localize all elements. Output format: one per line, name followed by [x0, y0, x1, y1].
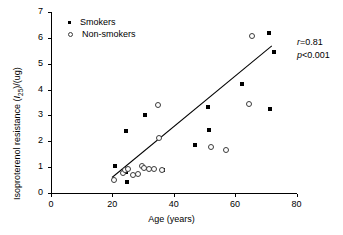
marker-non-smoker	[135, 171, 141, 177]
y-tick-label: 7	[29, 7, 43, 16]
y-axis-title-symbol: I	[12, 96, 22, 99]
marker-smoker	[267, 31, 271, 35]
legend: Smokers Non-smokers	[68, 16, 136, 40]
y-axis-title-suffix: )/(ug)	[12, 67, 22, 89]
x-tick-label: 40	[164, 200, 184, 209]
y-tick-label: 5	[29, 59, 43, 68]
legend-item-smokers: Smokers	[68, 16, 136, 28]
x-tick-label: 0	[41, 200, 61, 209]
annotation-correlation: r=0.81	[297, 37, 323, 47]
marker-non-smoker	[156, 135, 162, 141]
annotation-pvalue: p<0.001	[297, 50, 330, 60]
filled-square-icon	[68, 21, 71, 24]
marker-smoker	[240, 82, 244, 86]
marker-smoker	[113, 164, 117, 168]
y-axis-title: Isoproterenol resistance (I25)/(ug)	[12, 67, 24, 200]
scatter-plot-figure: 01234567020406080 Age (years) Isoprotere…	[0, 0, 343, 235]
marker-smoker	[125, 180, 129, 184]
regression-line	[112, 45, 273, 178]
marker-non-smoker	[246, 101, 252, 107]
y-tick-label: 0	[29, 188, 43, 197]
marker-non-smoker	[249, 33, 255, 39]
marker-non-smoker	[151, 166, 157, 172]
y-tick	[48, 38, 51, 39]
marker-smoker	[124, 129, 128, 133]
y-tick-label: 1	[29, 162, 43, 171]
marker-smoker	[272, 50, 276, 54]
x-tick	[174, 194, 175, 197]
marker-non-smoker	[155, 102, 161, 108]
open-circle-icon	[68, 32, 73, 37]
x-tick	[51, 194, 52, 197]
y-tick	[48, 115, 51, 116]
y-axis-line	[51, 12, 52, 194]
annotation-p-value: 0.001	[307, 50, 330, 60]
marker-smoker	[207, 128, 211, 132]
y-tick-label: 3	[29, 110, 43, 119]
y-tick	[48, 90, 51, 91]
y-tick-label: 2	[29, 136, 43, 145]
y-axis-title-subscript: 25	[17, 89, 24, 96]
x-tick-label: 60	[225, 200, 245, 209]
x-tick	[112, 194, 113, 197]
x-tick-label: 20	[102, 200, 122, 209]
marker-smoker	[143, 113, 147, 117]
y-tick-label: 4	[29, 85, 43, 94]
marker-non-smoker	[208, 144, 214, 150]
x-tick	[235, 194, 236, 197]
y-axis-title-prefix: Isoproterenol resistance (	[12, 98, 22, 200]
legend-label-smokers: Smokers	[80, 17, 116, 27]
marker-smoker	[268, 107, 272, 111]
marker-smoker	[193, 143, 197, 147]
marker-non-smoker	[111, 177, 117, 183]
y-tick	[48, 141, 51, 142]
marker-smoker	[206, 105, 210, 109]
x-tick	[297, 194, 298, 197]
x-axis-title: Age (years)	[0, 214, 343, 224]
y-tick	[48, 167, 51, 168]
marker-non-smoker	[125, 166, 131, 172]
annotation-r-value: 0.81	[305, 37, 323, 47]
marker-non-smoker	[223, 147, 229, 153]
marker-non-smoker	[159, 167, 165, 173]
legend-item-non-smokers: Non-smokers	[68, 28, 136, 40]
y-tick-label: 6	[29, 33, 43, 42]
legend-label-non-smokers: Non-smokers	[82, 29, 136, 39]
y-tick	[48, 12, 51, 13]
y-tick	[48, 64, 51, 65]
x-tick-label: 80	[287, 200, 307, 209]
